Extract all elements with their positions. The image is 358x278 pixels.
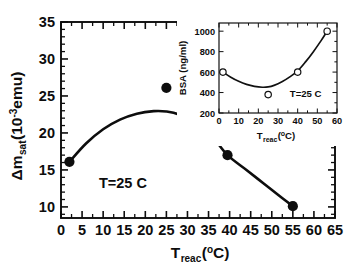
- x-tick-label: 5: [78, 222, 86, 238]
- inset-data-point: [294, 69, 300, 75]
- inset-x-tick-label: 40: [293, 116, 303, 126]
- y-tick-label: 35: [39, 14, 55, 30]
- inset-x-tick-label: 0: [216, 116, 221, 126]
- inset-data-point: [220, 69, 226, 75]
- x-tick-label: 35: [200, 222, 216, 238]
- inset-y-axis-title: BSA (ng/ml): [177, 41, 188, 96]
- x-tick-label: 30: [179, 222, 195, 238]
- x-tick-label: 0: [57, 222, 65, 238]
- x-tick-label: 55: [285, 222, 301, 238]
- inset-y-tick-label: 800: [200, 47, 215, 57]
- x-tick-label: 15: [116, 222, 132, 238]
- inset-data-point: [324, 28, 330, 34]
- y-tick-label: 20: [39, 125, 55, 141]
- inset-y-tick-label: 400: [200, 88, 215, 98]
- inset-data-point: [265, 91, 271, 97]
- inset-y-tick-label: 200: [200, 109, 215, 119]
- x-tick-label: 45: [243, 222, 259, 238]
- main-y-axis-title: Δmsat(10-3emu): [8, 72, 28, 181]
- main-data-point: [222, 150, 232, 160]
- y-tick-label: 10: [39, 199, 55, 215]
- x-tick-label: 60: [306, 222, 322, 238]
- inset-x-tick-label: 30: [273, 116, 283, 126]
- main-x-axis-title: Treac(oC): [171, 244, 230, 264]
- y-tick-label: 30: [39, 51, 55, 67]
- x-tick-label: 50: [264, 222, 280, 238]
- main-data-point: [288, 201, 298, 211]
- y-tick-label: 25: [39, 88, 55, 104]
- main-data-point: [64, 157, 74, 167]
- x-tick-label: 40: [222, 222, 238, 238]
- inset-annotation: T=25 C: [290, 88, 322, 99]
- inset-plot: 01020304050602004006008001000T=25 C: [177, 14, 349, 146]
- x-tick-label: 65: [327, 222, 343, 238]
- inset-y-tick-label: 600: [200, 68, 215, 78]
- y-tick-label: 15: [39, 162, 55, 178]
- inset-x-tick-label: 60: [332, 116, 342, 126]
- main-annotation: T=25 C: [99, 175, 147, 191]
- inset-x-tick-label: 50: [312, 116, 322, 126]
- inset-x-tick-label: 20: [253, 116, 263, 126]
- figure-container: 05101520253035404550556065101520253035T=…: [0, 0, 358, 278]
- x-tick-label: 25: [158, 222, 174, 238]
- x-tick-label: 10: [95, 222, 111, 238]
- scientific-figure: 05101520253035404550556065101520253035T=…: [0, 0, 358, 278]
- main-data-point: [161, 83, 171, 93]
- inset-x-tick-label: 10: [234, 116, 244, 126]
- inset-y-tick-label: 1000: [195, 27, 215, 37]
- x-tick-label: 20: [137, 222, 153, 238]
